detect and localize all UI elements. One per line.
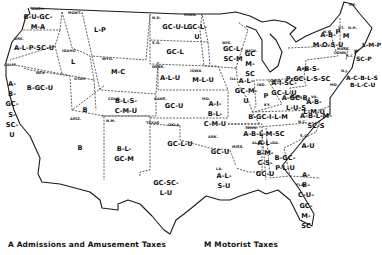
state-tax-codes-okla: GC-L-U <box>167 139 192 149</box>
legend-label: Admissions and Amusement Taxes <box>17 240 166 249</box>
state-tax-codes-mich: GC M- SC <box>245 49 255 80</box>
state-tax-codes-nj: A-C-B-L-S <box>346 74 378 81</box>
state-tax-codes-iowa: M-L-U <box>192 75 214 85</box>
state-tax-codes-ill: A-L- GC-M- U <box>235 76 257 107</box>
state-tax-codes-minn: GC-L- U <box>187 22 207 42</box>
legend-key: M <box>204 240 212 249</box>
state-abbr-nm: N.M. <box>106 120 116 124</box>
state-tax-codes-md: B-L-C-U <box>350 81 375 88</box>
state-tax-codes-nev: B-GC-U <box>27 83 53 93</box>
state-abbr-ky: KY. <box>264 104 270 108</box>
state-abbr-nh: N.H. <box>348 27 357 31</box>
state-tax-codes-vt: P <box>336 27 341 37</box>
state-tax-codes-sd: GC-L <box>166 47 183 57</box>
state-abbr-ariz: ARIZ. <box>70 118 81 122</box>
legend-key: A <box>8 240 14 249</box>
state-tax-codes-kans: GC-U <box>165 101 184 111</box>
state-tax-codes-ind: P <box>264 91 269 101</box>
state-abbr-sd: S.D. <box>152 42 161 46</box>
state-tax-codes-nd: GC-U-L <box>162 22 187 32</box>
state-abbr-calif: CALIF. <box>4 64 17 68</box>
state-abbr-nd: N.D. <box>152 17 161 21</box>
state-tax-codes-ky: B-GC-I-L-M <box>248 112 288 122</box>
state-abbr-md: MD. <box>330 84 338 88</box>
state-tax-codes-mass: L-M-P <box>362 41 381 48</box>
state-tax-codes-calif: A- B- GC- S- SC- U <box>5 79 18 140</box>
state-abbr-ark: ARK. <box>208 136 218 140</box>
state-tax-codes-fla: A- B- C-U- GC- M- SC <box>298 170 314 231</box>
state-abbr-iowa: IOWA <box>190 70 201 74</box>
state-tax-codes-wis: GC-L- SC-M <box>223 44 243 64</box>
state-abbr-ri: R.I. <box>346 55 353 59</box>
state-tax-codes-idaho: L <box>71 57 75 67</box>
state-tax-codes-nebr: A-L-U <box>160 73 180 83</box>
state-abbr-sc: S.C. <box>300 135 308 139</box>
state-tax-codes-ga: B-GC- P-L-U <box>275 153 296 173</box>
state-tax-codes-mont: L-P <box>94 25 106 35</box>
state-tax-codes-mo: A-I- B-L- C-M-U <box>204 99 226 130</box>
state-abbr-ga: GA. <box>272 142 279 146</box>
state-abbr-idaho: IDAHO <box>62 50 76 54</box>
legend-item-m: M Motorist Taxes <box>204 240 278 249</box>
state-abbr-miss: MISS. <box>232 146 244 150</box>
state-tax-codes-nh: M <box>343 31 350 41</box>
state-tax-codes-ri: SC-P <box>356 55 372 62</box>
state-abbr-mont: MONT. <box>68 12 81 16</box>
state-abbr-ind: IND. <box>257 84 266 88</box>
state-abbr-texas: TEXAS <box>146 122 160 126</box>
state-abbr-wyo: WYO. <box>102 58 113 62</box>
state-tax-codes-wyo: M-C <box>111 67 125 77</box>
state-tax-codes-colo: B-L-S- C-M-U <box>115 96 137 116</box>
state-abbr-nebr: NEBR. <box>152 66 165 70</box>
state-tax-codes-utah: B <box>82 105 87 115</box>
state-tax-codes-ariz: B <box>77 143 82 153</box>
state-abbr-nev: NEV. <box>36 72 46 76</box>
legend-label: Motorist Taxes <box>214 240 278 249</box>
state-abbr-okla: OKLA. <box>168 124 181 128</box>
state-abbr-minn: MINN. <box>184 14 197 18</box>
state-tax-codes-texas: GC-SC- L-U <box>153 178 179 198</box>
state-tax-codes-la: A-L- S-U <box>217 171 232 191</box>
state-tax-codes-sc: A-U <box>301 141 314 151</box>
state-tax-codes-wva: A-GC-B- L-U-S <box>282 93 311 113</box>
state-tax-codes-nm: B-L- GC-M <box>114 144 134 164</box>
state-abbr-ore: ORE. <box>14 38 24 42</box>
state-abbr-me: ME. <box>349 4 357 8</box>
state-tax-codes-wash: B-U-GC- M-A <box>24 12 53 32</box>
state-tax-codes-ark: GC-U <box>211 147 230 157</box>
state-abbr-utah: UTAH <box>74 78 85 82</box>
state-tax-codes-conn: P <box>354 48 358 55</box>
state-tax-codes-pa: A-B-S- P-GC-L-S-SC <box>286 64 331 84</box>
legend-item-a: A Admissions and Amusement Taxes <box>8 240 166 249</box>
state-tax-codes-ore: A-L-P-SC-U <box>14 43 54 53</box>
